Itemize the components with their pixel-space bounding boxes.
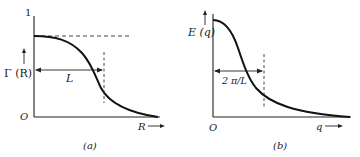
wavenumber-label: 2 π/L — [221, 75, 247, 86]
spectrum-curve — [213, 20, 350, 117]
y-max-label: 1 — [25, 7, 31, 18]
arrow-up-icon — [22, 48, 26, 53]
panel-b: E (q) 2 π/L O q (b) — [187, 10, 351, 151]
arrowhead-left-icon — [35, 68, 41, 73]
caption-b: (b) — [273, 140, 287, 151]
arrowhead-right-icon — [257, 69, 263, 74]
arrow-up-icon — [203, 10, 207, 15]
x-axis-label-b: q — [316, 121, 322, 132]
arrowhead-right-icon — [97, 68, 103, 73]
origin-label-a: O — [20, 111, 28, 122]
arrow-right-icon — [338, 124, 343, 128]
caption-a: (a) — [83, 140, 97, 151]
panel-a: 1 Γ (R) L O R (a) — [4, 7, 165, 151]
origin-label-b: O — [209, 122, 217, 133]
length-label: L — [65, 72, 73, 85]
x-axis-label-a: R — [137, 121, 146, 132]
y-axis-label-a: Γ (R) — [4, 67, 32, 80]
arrow-right-icon — [160, 124, 165, 128]
y-axis-label-b: E (q) — [187, 26, 215, 39]
figure: 1 Γ (R) L O R (a) E (q) 2 π/L O q (b) — [0, 0, 360, 157]
correlation-curve — [34, 36, 158, 117]
arrowhead-left-icon — [214, 69, 220, 74]
